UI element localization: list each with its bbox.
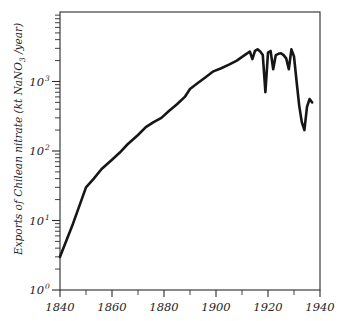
y-tick-exponent: 1 [45,213,50,222]
y-tick-exponent: 0 [45,282,50,291]
x-tick-label: 1940 [305,300,334,314]
y-axis-title-tail: /year) [12,23,24,57]
y-axis-tick-labels: 10 0 10 1 10 2 10 3 [29,74,50,298]
y-axis-major-ticks [52,82,60,291]
x-tick-label: 1880 [149,300,178,314]
x-axis-minor-ticks [86,290,294,295]
y-tick-exponent: 2 [44,143,50,152]
y-tick-label: 10 [29,144,44,158]
y-tick-label: 10 [29,283,44,297]
svg-text:Exports of Chilean nitrate (kt: Exports of Chilean nitrate (kt NaNO3 /ye… [12,23,27,256]
y-tick-exponent: 3 [45,74,50,83]
y-axis-title: Exports of Chilean nitrate (kt NaNO3 /ye… [12,23,27,256]
x-tick-label: 1900 [201,300,230,314]
x-tick-label: 1840 [45,300,74,314]
y-axis-minor-ticks [55,15,60,269]
x-tick-label: 1860 [97,300,126,314]
chart-canvas: 1840 1860 1880 1900 1920 1940 10 0 10 1 … [0,0,345,321]
chart-figure: 1840 1860 1880 1900 1920 1940 10 0 10 1 … [0,0,345,321]
y-axis-title-lead: Exports of Chilean nitrate (kt NaNO [12,62,24,256]
x-tick-label: 1920 [253,300,282,314]
data-series-line [60,49,312,256]
y-tick-label: 10 [29,75,44,89]
x-axis-tick-labels: 1840 1860 1880 1900 1920 1940 [45,300,334,314]
y-tick-label: 10 [29,214,44,228]
